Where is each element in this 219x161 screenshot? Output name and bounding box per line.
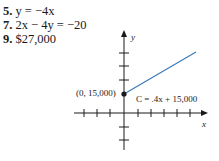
graph: y x (0, 15,000) C = .4x + 15,000 <box>0 0 219 161</box>
intercept-point <box>121 91 126 96</box>
equation-label: C = .4x + 15,000 <box>136 94 198 104</box>
y-axis-label: y <box>130 32 135 42</box>
cost-line <box>124 52 196 94</box>
x-axis-arrow-icon <box>201 110 208 116</box>
point-label: (0, 15,000) <box>76 88 116 98</box>
y-axis-arrow-icon <box>121 30 127 37</box>
x-axis-label: x <box>201 119 206 129</box>
